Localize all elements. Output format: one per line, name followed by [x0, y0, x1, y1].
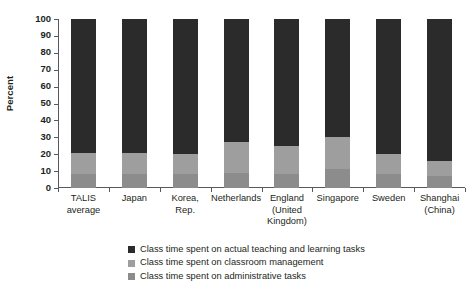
bar-segment[interactable]	[325, 169, 350, 188]
legend-swatch-administrative	[128, 273, 135, 280]
stacked-bar[interactable]	[122, 19, 147, 188]
plot-area: 0102030405060708090100 TALIS averageJapa…	[58, 19, 465, 188]
y-tick-mark	[54, 120, 58, 121]
legend-label-classroom-management: Class time spent on classroom management	[140, 256, 323, 269]
y-tick-mark	[54, 53, 58, 54]
y-tick-label: 80	[40, 46, 51, 57]
y-tick-mark	[54, 70, 58, 71]
bar-segment[interactable]	[325, 137, 350, 169]
bar-group[interactable]: Sweden	[376, 19, 401, 188]
x-tick-mark	[312, 188, 313, 192]
legend-item-teaching: Class time spent on actual teaching and …	[128, 243, 365, 256]
bar-segment[interactable]	[274, 146, 299, 175]
bar-segment[interactable]	[122, 19, 147, 153]
bar-segment[interactable]	[427, 176, 452, 188]
chart-legend: Class time spent on actual teaching and …	[128, 243, 365, 283]
x-tick-mark	[211, 188, 212, 192]
bar-segment[interactable]	[224, 142, 249, 172]
x-tick-mark	[363, 188, 364, 192]
y-tick-label: 70	[40, 63, 51, 74]
bar-group[interactable]: Japan	[122, 19, 147, 188]
y-tick-mark	[54, 171, 58, 172]
bar-segment[interactable]	[71, 19, 96, 153]
y-tick-mark	[54, 87, 58, 88]
stacked-bar[interactable]	[173, 19, 198, 188]
bar-segment[interactable]	[274, 174, 299, 188]
bar-segment[interactable]	[274, 19, 299, 146]
y-tick-label: 20	[40, 148, 51, 159]
bar-segment[interactable]	[376, 154, 401, 174]
y-tick-label: 0	[46, 182, 51, 193]
stacked-bar[interactable]	[71, 19, 96, 188]
bar-segment[interactable]	[376, 19, 401, 154]
stacked-bar[interactable]	[274, 19, 299, 188]
bar-segment[interactable]	[427, 161, 452, 176]
bar-segment[interactable]	[224, 19, 249, 142]
stacked-bar[interactable]	[376, 19, 401, 188]
y-axis-line	[58, 19, 59, 188]
x-tick-mark	[58, 188, 59, 192]
y-tick-label: 40	[40, 114, 51, 125]
bar-group[interactable]: Singapore	[325, 19, 350, 188]
x-tick-mark	[109, 188, 110, 192]
bar-segment[interactable]	[173, 154, 198, 174]
x-tick-mark	[160, 188, 161, 192]
bar-segment[interactable]	[325, 19, 350, 137]
bar-group[interactable]: TALIS average	[71, 19, 96, 188]
x-tick-mark	[465, 188, 466, 192]
legend-item-classroom-management: Class time spent on classroom management	[128, 256, 365, 269]
y-tick-mark	[54, 154, 58, 155]
bar-group[interactable]: England (United Kingdom)	[274, 19, 299, 188]
y-tick-label: 60	[40, 80, 51, 91]
legend-label-teaching: Class time spent on actual teaching and …	[140, 243, 365, 256]
y-tick-label: 100	[35, 13, 51, 24]
stacked-bar[interactable]	[224, 19, 249, 188]
bar-segment[interactable]	[122, 153, 147, 175]
bar-segment[interactable]	[173, 19, 198, 154]
bar-segment[interactable]	[173, 174, 198, 188]
bar-segment[interactable]	[71, 174, 96, 188]
bar-segment[interactable]	[376, 174, 401, 188]
y-tick-mark	[54, 36, 58, 37]
y-tick-label: 10	[40, 165, 51, 176]
stacked-bar-chart: Percent 0102030405060708090100 TALIS ave…	[0, 0, 471, 298]
stacked-bar[interactable]	[325, 19, 350, 188]
legend-swatch-classroom-management	[128, 260, 135, 267]
y-tick-label: 50	[40, 97, 51, 108]
bar-group[interactable]: Korea, Rep.	[173, 19, 198, 188]
y-axis-title: Percent	[4, 64, 15, 124]
x-tick-mark	[262, 188, 263, 192]
bar-group[interactable]: Shanghai (China)	[427, 19, 452, 188]
y-tick-label: 30	[40, 131, 51, 142]
legend-swatch-teaching	[128, 246, 135, 253]
legend-item-administrative: Class time spent on administrative tasks	[128, 270, 365, 283]
y-tick-label: 90	[40, 29, 51, 40]
y-tick-mark	[54, 137, 58, 138]
x-axis-label: Shanghai (China)	[403, 193, 471, 216]
y-tick-mark	[54, 19, 58, 20]
y-tick-mark	[54, 104, 58, 105]
legend-label-administrative: Class time spent on administrative tasks	[140, 270, 306, 283]
bar-segment[interactable]	[224, 173, 249, 188]
bar-group[interactable]: Netherlands	[224, 19, 249, 188]
x-tick-mark	[414, 188, 415, 192]
bar-segment[interactable]	[427, 19, 452, 161]
bar-segment[interactable]	[122, 174, 147, 188]
stacked-bar[interactable]	[427, 19, 452, 188]
bar-segment[interactable]	[71, 153, 96, 175]
